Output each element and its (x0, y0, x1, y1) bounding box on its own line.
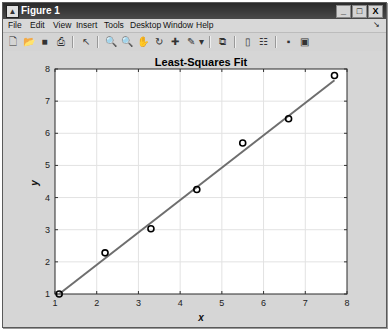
y-tick-labels: 12345678 (45, 64, 50, 299)
y-axis-label: y (29, 180, 40, 187)
svg-text:3: 3 (136, 298, 141, 308)
svg-text:5: 5 (45, 160, 50, 170)
svg-text:3: 3 (45, 225, 50, 235)
svg-text:5: 5 (219, 298, 224, 308)
axes[interactable]: Least-Squares Fit 12345678 12345678 x y (0, 0, 389, 330)
plot-area (55, 69, 347, 294)
svg-text:7: 7 (45, 96, 50, 106)
svg-text:7: 7 (303, 298, 308, 308)
svg-text:1: 1 (52, 298, 57, 308)
svg-text:2: 2 (45, 257, 50, 267)
x-axis-label: x (197, 312, 204, 323)
svg-text:2: 2 (94, 298, 99, 308)
svg-text:8: 8 (45, 64, 50, 74)
svg-text:8: 8 (344, 298, 349, 308)
svg-text:6: 6 (45, 128, 50, 138)
chart-title: Least-Squares Fit (155, 56, 248, 68)
svg-text:1: 1 (45, 289, 50, 299)
svg-text:6: 6 (261, 298, 266, 308)
svg-text:4: 4 (178, 298, 183, 308)
svg-text:4: 4 (45, 193, 50, 203)
x-tick-labels: 12345678 (52, 298, 349, 308)
